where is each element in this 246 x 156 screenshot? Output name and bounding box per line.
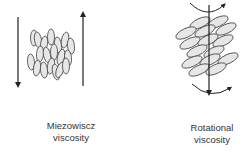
bottom-rotation-arrow-icon [192, 84, 230, 94]
tilted-ellipse-stack [174, 13, 240, 78]
rotational-label-line1: Rotational [162, 122, 246, 134]
rotational-label: Rotational viscosity [162, 122, 246, 146]
rotational-label-line2: viscosity [162, 134, 246, 146]
ellipse-cluster [27, 29, 76, 81]
miezowiscz-label-line1: Miezowiscz [21, 120, 121, 132]
miezowiscz-label: Miezowiscz viscosity [21, 120, 121, 144]
miezowiscz-label-line2: viscosity [21, 132, 121, 144]
miezowiscz-panel [18, 14, 83, 86]
top-rotation-arrow-icon [190, 3, 224, 12]
rotational-panel [174, 3, 240, 94]
